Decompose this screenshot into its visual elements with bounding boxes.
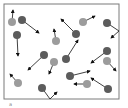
gas-particles-diagram — [0, 0, 128, 108]
dark-particle — [103, 19, 111, 27]
dark-particle — [66, 72, 74, 80]
figure-caption-label: a — [9, 102, 12, 107]
light-particle — [8, 18, 16, 26]
dark-particle — [18, 16, 26, 24]
dark-particle — [103, 47, 111, 55]
dark-particle — [38, 84, 46, 92]
dark-particle — [40, 51, 48, 59]
light-particle — [103, 57, 111, 65]
dark-particle — [62, 55, 70, 63]
dark-particle — [13, 31, 21, 39]
light-particle — [14, 79, 22, 87]
light-particle — [52, 37, 60, 45]
dark-particle — [104, 85, 112, 93]
dark-particle — [72, 30, 80, 38]
light-particle — [83, 80, 91, 88]
light-particle — [50, 58, 58, 66]
light-particle — [79, 18, 87, 26]
